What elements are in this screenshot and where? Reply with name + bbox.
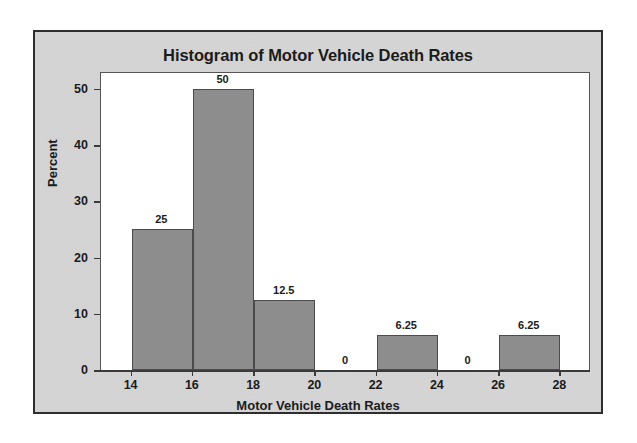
x-axis-line	[100, 370, 590, 372]
x-axis-tick	[437, 370, 439, 376]
x-axis-tick	[253, 370, 255, 376]
plot-area	[100, 72, 590, 370]
x-axis-tick-label: 24	[430, 378, 444, 392]
y-axis-tick-label: 0	[81, 363, 88, 377]
y-axis-tick	[94, 145, 100, 147]
y-axis-tick-label: 20	[74, 251, 88, 265]
bar-value-label: 0	[464, 354, 470, 366]
y-axis-tick	[94, 258, 100, 260]
x-axis-tick-label: 20	[307, 378, 321, 392]
x-axis-tick	[192, 370, 194, 376]
screenshot-root: Histogram of Motor Vehicle Death Rates 1…	[0, 0, 637, 443]
bar-value-label: 25	[155, 213, 167, 225]
bar-value-label: 6.25	[518, 319, 539, 331]
chart-figure-frame: Histogram of Motor Vehicle Death Rates 1…	[33, 30, 603, 414]
histogram-bar	[193, 89, 254, 370]
bar-value-label: 12.5	[273, 284, 294, 296]
bar-value-label: 50	[216, 73, 228, 85]
x-axis-tick-label: 22	[369, 378, 383, 392]
y-axis-tick	[94, 370, 100, 372]
x-axis-tick	[376, 370, 378, 376]
y-axis-title: Percent	[45, 139, 60, 187]
bar-value-label: 0	[342, 354, 348, 366]
y-axis-tick	[94, 201, 100, 203]
x-axis-tick	[314, 370, 316, 376]
x-axis-tick	[498, 370, 500, 376]
x-axis-tick-label: 14	[124, 378, 138, 392]
histogram-bar	[254, 300, 315, 370]
x-axis-tick	[559, 370, 561, 376]
x-axis-tick	[131, 370, 133, 376]
y-axis-tick	[94, 314, 100, 316]
y-axis-tick-label: 50	[74, 82, 88, 96]
plot-canvas	[101, 73, 589, 370]
y-axis-tick	[94, 89, 100, 91]
y-axis-tick-label: 30	[74, 194, 88, 208]
x-axis-tick-label: 18	[246, 378, 260, 392]
histogram-bar	[377, 335, 438, 370]
x-axis-title: Motor Vehicle Death Rates	[35, 398, 601, 413]
y-axis-tick-label: 40	[74, 138, 88, 152]
x-axis-tick-label: 16	[185, 378, 199, 392]
histogram-bar	[132, 229, 193, 370]
x-axis-tick-label: 28	[552, 378, 566, 392]
bar-value-label: 6.25	[396, 319, 417, 331]
chart-title: Histogram of Motor Vehicle Death Rates	[35, 46, 601, 65]
y-axis-tick-label: 10	[74, 307, 88, 321]
histogram-bar	[499, 335, 560, 370]
x-axis-tick-label: 26	[491, 378, 505, 392]
